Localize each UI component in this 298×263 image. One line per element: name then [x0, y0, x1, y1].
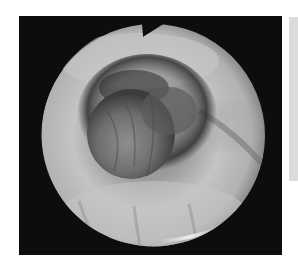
endoscopic-image-frame [19, 16, 282, 255]
endoscopic-view [19, 16, 282, 255]
side-panel [289, 17, 298, 181]
